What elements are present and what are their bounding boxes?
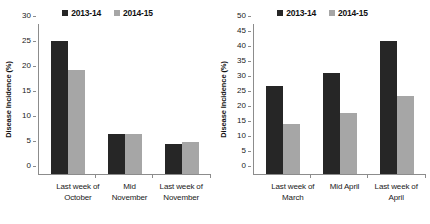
y-axis-title-autumn: Disease Incidence (%) — [2, 24, 14, 174]
bar-2014-15-last-week-april — [397, 96, 414, 174]
tick-mark-icon — [248, 121, 251, 122]
y-tick-35: 35 — [237, 57, 251, 65]
x-label-last-week-october: Last week of October — [52, 182, 104, 203]
x-axis-ticks-spring — [253, 174, 426, 179]
legend-label-2014-15: 2014-15 — [338, 9, 368, 18]
legend-label-2013-14: 2013-14 — [71, 9, 101, 18]
chart-panel-autumn: 2013-14 2014-15 Disease Incidence (%) 30 — [0, 0, 215, 224]
legend-entry-2014-15: 2014-15 — [114, 9, 153, 18]
plot-area-spring: Disease Incidence (%) 50 45 40 — [215, 24, 430, 224]
y-tick-15: 15 — [22, 87, 36, 95]
y-axis-ticks-spring: 50 45 40 35 — [229, 24, 251, 174]
x-tick — [96, 174, 154, 179]
y-axis-title-text: Disease Incidence (%) — [219, 61, 228, 138]
x-tick — [153, 174, 211, 179]
x-axis-labels-spring: Last week of March Mid April Last week o… — [267, 182, 422, 203]
legend-entry-2013-14: 2013-14 — [277, 9, 316, 18]
x-label-last-week-april: Last week of April — [370, 182, 422, 203]
figure-two-panel-bar-charts: 2013-14 2014-15 Disease Incidence (%) 30 — [0, 0, 430, 224]
tick-mark-icon — [33, 91, 36, 92]
bars-region-autumn — [38, 24, 211, 175]
bar-group-last-week-october — [39, 24, 96, 174]
x-tick — [253, 174, 311, 179]
legend-label-2013-14: 2013-14 — [286, 9, 316, 18]
y-tick-0: 0 — [27, 162, 36, 170]
y-tick-10: 10 — [22, 112, 36, 120]
tick-mark-icon — [33, 141, 36, 142]
bar-groups-autumn — [39, 24, 211, 174]
bar-2014-15-mid-november — [125, 134, 142, 174]
tick-mark-icon — [248, 16, 251, 17]
bars-region-spring — [253, 24, 426, 175]
tick-mark-icon — [33, 166, 36, 167]
bar-group-last-week-april — [369, 24, 426, 174]
tick-mark-icon — [33, 41, 36, 42]
legend-swatch-icon-2014-15 — [114, 10, 120, 16]
y-tick-5: 5 — [242, 147, 251, 155]
bar-group-mid-november — [96, 24, 153, 174]
tick-mark-icon — [33, 16, 36, 17]
tick-mark-icon — [248, 31, 251, 32]
x-tick — [368, 174, 426, 179]
bar-2013-14-last-week-march — [266, 86, 283, 174]
tick-mark-icon — [248, 61, 251, 62]
x-tick — [38, 174, 96, 179]
tick-mark-icon — [248, 166, 251, 167]
legend-swatch-icon-2014-15 — [329, 10, 335, 16]
axes-autumn: 30 25 20 15 — [14, 24, 211, 189]
x-label-mid-april: Mid April — [319, 182, 371, 203]
bar-2014-15-last-week-march — [283, 124, 300, 174]
plot-area-autumn: Disease Incidence (%) 30 25 20 — [0, 24, 215, 224]
bar-2013-14-last-week-october — [51, 41, 68, 175]
legend-swatch-icon-2013-14 — [62, 10, 68, 16]
y-tick-20: 20 — [237, 102, 251, 110]
bar-2013-14-mid-april — [323, 73, 340, 174]
x-axis-ticks-autumn — [38, 174, 211, 179]
y-axis-title-spring: Disease Incidence (%) — [217, 24, 229, 174]
tick-mark-icon — [33, 116, 36, 117]
x-label-last-week-november: Last week of November — [155, 182, 207, 203]
tick-mark-icon — [248, 46, 251, 47]
bar-group-last-week-march — [254, 24, 311, 174]
bar-2013-14-last-week-november — [165, 144, 182, 175]
y-tick-30: 30 — [22, 12, 36, 20]
tick-mark-icon — [248, 151, 251, 152]
x-label-mid-november: Mid November — [104, 182, 156, 203]
legend-swatch-icon-2013-14 — [277, 10, 283, 16]
y-tick-30: 30 — [237, 72, 251, 80]
y-tick-45: 45 — [237, 27, 251, 35]
legend-entry-2014-15: 2014-15 — [329, 9, 368, 18]
bar-group-mid-april — [311, 24, 368, 174]
bar-groups-spring — [254, 24, 426, 174]
y-axis-title-text: Disease Incidence (%) — [4, 61, 13, 138]
y-tick-25: 25 — [237, 87, 251, 95]
bar-2013-14-mid-november — [108, 134, 125, 174]
y-tick-20: 20 — [22, 62, 36, 70]
y-tick-5: 5 — [27, 137, 36, 145]
tick-mark-icon — [33, 66, 36, 67]
x-axis-labels-autumn: Last week of October Mid November Last w… — [52, 182, 207, 203]
legend-entry-2013-14: 2013-14 — [62, 9, 101, 18]
y-tick-15: 15 — [237, 117, 251, 125]
legend-label-2014-15: 2014-15 — [123, 9, 153, 18]
y-tick-0: 0 — [242, 162, 251, 170]
y-tick-40: 40 — [237, 42, 251, 50]
x-label-last-week-march: Last week of March — [267, 182, 319, 203]
tick-mark-icon — [248, 91, 251, 92]
y-tick-25: 25 — [22, 37, 36, 45]
x-tick — [311, 174, 369, 179]
bar-2014-15-last-week-october — [68, 70, 85, 175]
bar-group-last-week-november — [154, 24, 211, 174]
tick-mark-icon — [248, 76, 251, 77]
y-axis-ticks-autumn: 30 25 20 15 — [14, 24, 36, 174]
axes-spring: 50 45 40 35 — [229, 24, 426, 189]
y-tick-50: 50 — [237, 12, 251, 20]
bar-2014-15-mid-april — [340, 113, 357, 174]
bar-2014-15-last-week-november — [182, 142, 199, 174]
tick-mark-icon — [248, 136, 251, 137]
tick-mark-icon — [248, 106, 251, 107]
bar-2013-14-last-week-april — [380, 41, 397, 174]
y-tick-10: 10 — [237, 132, 251, 140]
chart-panel-spring: 2013-14 2014-15 Disease Incidence (%) 50 — [215, 0, 430, 224]
